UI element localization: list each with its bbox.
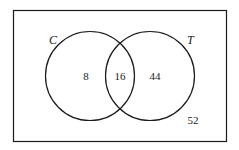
intersection-count: 16 [115,70,127,82]
venn-diagram: C T 8 16 44 52 [0,0,239,150]
set-t-label: T [187,33,195,47]
set-c-label: C [49,33,58,47]
t-only-count: 44 [150,70,162,82]
outside-count: 52 [188,114,199,126]
c-only-count: 8 [83,70,89,82]
